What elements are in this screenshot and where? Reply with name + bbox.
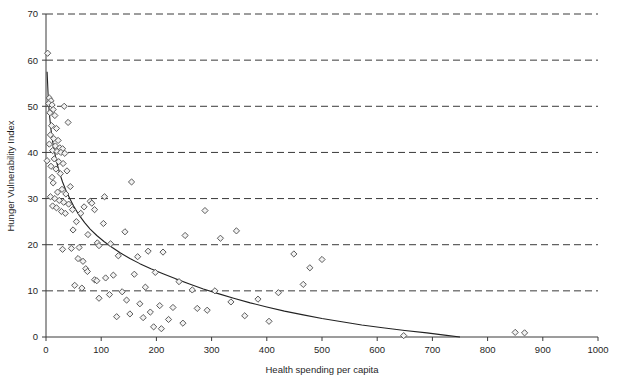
data-point (266, 318, 272, 324)
data-point (189, 287, 195, 293)
data-point (72, 282, 78, 288)
x-axis-title: Health spending per capita (265, 364, 379, 375)
data-point (128, 179, 134, 185)
data-point (46, 141, 52, 147)
data-point (158, 326, 164, 332)
data-point (204, 307, 210, 313)
data-point (103, 275, 109, 281)
data-point (100, 220, 106, 226)
data-point (96, 295, 102, 301)
data-point (157, 303, 163, 309)
x-tick-label: 0 (43, 344, 48, 355)
x-tick-label: 800 (480, 344, 496, 355)
x-tick-label: 600 (369, 344, 385, 355)
y-tick-label: 70 (27, 8, 38, 19)
data-point (73, 219, 79, 225)
data-point (180, 320, 186, 326)
data-point (194, 305, 200, 311)
data-point (512, 329, 518, 335)
data-point (233, 228, 239, 234)
y-tick-group: 010203040506070 (27, 8, 46, 342)
data-point (147, 309, 153, 315)
data-point (135, 254, 141, 260)
chart-container: 010203040506070 010020030040050060070080… (0, 0, 621, 382)
y-tick-label: 50 (27, 101, 38, 112)
data-point (123, 297, 129, 303)
y-tick-label: 10 (27, 285, 38, 296)
y-tick-label: 0 (33, 331, 38, 342)
data-point (68, 245, 74, 251)
data-point (217, 235, 223, 241)
data-point (401, 333, 407, 339)
y-tick-label: 20 (27, 239, 38, 250)
data-point (140, 315, 146, 321)
data-point (76, 244, 82, 250)
data-point (521, 330, 527, 336)
scatter-plot-svg: 010203040506070 010020030040050060070080… (0, 0, 621, 382)
data-point (307, 265, 313, 271)
data-point (81, 204, 87, 210)
data-point (85, 231, 91, 237)
data-point (70, 227, 76, 233)
data-point (49, 174, 55, 180)
data-point (44, 158, 50, 164)
data-point (127, 311, 133, 317)
data-point (79, 285, 85, 291)
data-point (64, 168, 70, 174)
data-point (131, 271, 137, 277)
data-point (202, 207, 208, 213)
data-point (182, 232, 188, 238)
data-point (65, 119, 71, 125)
x-tick-label: 700 (424, 344, 440, 355)
x-tick-label: 100 (93, 344, 109, 355)
data-point (255, 296, 261, 302)
data-point (228, 299, 234, 305)
data-point (106, 291, 112, 297)
y-tick-label: 30 (27, 193, 38, 204)
data-point (78, 210, 84, 216)
data-point (145, 248, 151, 254)
y-axis-title: Hunger Vulnerability Index (5, 120, 16, 231)
data-point (160, 249, 166, 255)
x-tick-label: 900 (535, 344, 551, 355)
data-point (300, 281, 306, 287)
data-point (151, 324, 157, 330)
data-point (170, 304, 176, 310)
data-point (122, 229, 128, 235)
axis-lines-group (46, 14, 598, 337)
y-tick-label: 60 (27, 55, 38, 66)
data-point (114, 314, 120, 320)
data-point (137, 301, 143, 307)
data-point (165, 316, 171, 322)
data-point (61, 103, 67, 109)
data-point (119, 289, 125, 295)
data-points-group (44, 50, 528, 339)
data-point (59, 246, 65, 252)
gridlines-group (46, 14, 598, 291)
data-point (110, 272, 116, 278)
x-tick-label: 200 (148, 344, 164, 355)
x-tick-label: 1000 (587, 344, 608, 355)
data-point (57, 171, 63, 177)
data-point (242, 313, 248, 319)
data-point (107, 241, 113, 247)
data-point (291, 251, 297, 257)
x-tick-group: 01002003004005006007008009001000 (43, 337, 608, 355)
x-tick-label: 300 (204, 344, 220, 355)
x-tick-label: 400 (259, 344, 275, 355)
data-point (319, 256, 325, 262)
data-point (91, 207, 97, 213)
data-point (45, 50, 51, 56)
data-point (50, 180, 56, 186)
data-point (67, 183, 73, 189)
y-tick-label: 40 (27, 147, 38, 158)
x-tick-label: 500 (314, 344, 330, 355)
data-point (142, 284, 148, 290)
